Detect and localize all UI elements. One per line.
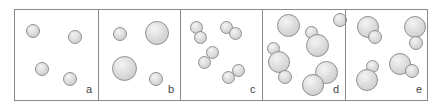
panel-label: a xyxy=(86,84,92,95)
sphere xyxy=(306,34,329,57)
sphere xyxy=(35,62,49,76)
panel-label: d xyxy=(333,84,339,95)
sphere xyxy=(149,72,163,86)
sphere xyxy=(222,71,235,84)
sphere xyxy=(409,36,423,50)
sphere xyxy=(277,14,300,37)
sphere xyxy=(145,21,169,45)
sphere xyxy=(26,24,40,38)
sphere xyxy=(113,27,127,41)
sphere xyxy=(405,64,419,78)
sphere xyxy=(68,30,82,44)
sphere xyxy=(356,69,378,91)
sphere xyxy=(194,31,207,44)
sphere xyxy=(404,16,426,38)
sphere xyxy=(229,27,242,40)
panel-label: c xyxy=(250,84,256,95)
sphere xyxy=(302,74,324,96)
sphere xyxy=(63,72,77,86)
panel-label: b xyxy=(168,84,174,95)
sphere xyxy=(198,56,211,69)
sphere xyxy=(368,30,382,44)
sphere xyxy=(278,70,292,84)
sphere xyxy=(112,56,137,81)
panel-label: e xyxy=(416,84,422,95)
